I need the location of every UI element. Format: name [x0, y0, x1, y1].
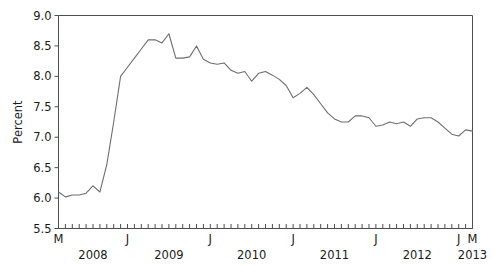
y-tick-label: 9.0	[33, 9, 51, 23]
y-axis-label: Percent	[11, 100, 25, 144]
y-tick-label: 6.0	[33, 191, 51, 205]
line-chart: 5.56.06.57.07.58.08.59.0 MJJJJJM 2008200…	[0, 0, 495, 277]
y-tick-label: 8.0	[33, 69, 51, 83]
x-year-label: 2010	[237, 248, 266, 262]
x-year-label: 2008	[78, 248, 107, 262]
x-month-label: J	[373, 232, 377, 246]
x-month-label: J	[456, 232, 460, 246]
y-tick-label: 7.0	[33, 130, 51, 144]
x-month-label: J	[125, 232, 129, 246]
x-month-label: M	[468, 232, 478, 246]
x-year-label: 2011	[320, 248, 349, 262]
x-year-label: 2009	[154, 248, 183, 262]
y-tick-label: 6.5	[33, 161, 51, 175]
x-month-label: J	[208, 232, 212, 246]
x-month-label: M	[54, 232, 64, 246]
x-year-label: 2013	[458, 248, 487, 262]
chart-figure: 5.56.06.57.07.58.08.59.0 MJJJJJM 2008200…	[0, 0, 495, 277]
chart-background	[0, 0, 495, 277]
x-year-label: 2012	[403, 248, 432, 262]
y-tick-label: 5.5	[33, 222, 51, 236]
y-tick-label: 7.5	[33, 100, 51, 114]
y-tick-label: 8.5	[33, 39, 51, 53]
x-axis-ticks	[59, 224, 473, 229]
x-month-label: J	[290, 232, 294, 246]
